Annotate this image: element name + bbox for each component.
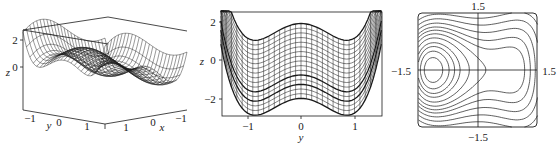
p3-label-top: 1.5 [471,1,485,12]
p3-label-right: 1.5 [542,66,556,77]
p3-label-left: −1.5 [391,66,411,77]
p3-label-bottom: −1.5 [468,132,488,143]
